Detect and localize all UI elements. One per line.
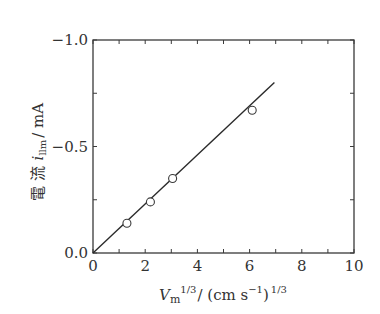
data-points [123, 106, 256, 227]
chart: 0246810 0.0−0.5−1.0 Vm1/3/ (cm s−1)1/3 電… [0, 0, 380, 314]
x-tick-label: 6 [245, 257, 255, 275]
fit-line [93, 83, 274, 253]
y-axis-label: 電 流illm/ mA [29, 103, 48, 202]
data-point-marker [248, 106, 256, 114]
axis-ticks [93, 40, 354, 253]
data-point-marker [169, 174, 177, 182]
x-tick-label: 10 [344, 257, 363, 275]
y-tick-labels: 0.0−0.5−1.0 [52, 31, 88, 262]
x-axis-label: Vm1/3/ (cm s−1)1/3 [159, 284, 287, 306]
fit-line-path [93, 83, 274, 253]
x-tick-labels: 0246810 [88, 257, 363, 275]
x-tick-label: 2 [140, 257, 150, 275]
y-tick-label: 0.0 [64, 244, 88, 262]
plot-frame [93, 40, 354, 253]
plot-border [93, 40, 354, 253]
data-point-marker [146, 198, 154, 206]
x-tick-label: 8 [297, 257, 307, 275]
data-point-marker [123, 219, 131, 227]
x-tick-label: 0 [88, 257, 98, 275]
x-tick-label: 4 [193, 257, 203, 275]
y-tick-label: −1.0 [52, 31, 88, 49]
y-tick-label: −0.5 [52, 138, 88, 156]
